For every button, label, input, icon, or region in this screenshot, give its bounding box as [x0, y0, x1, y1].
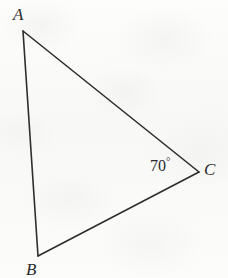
angle-label-c: 70° — [150, 156, 170, 174]
edge-AB — [23, 31, 38, 256]
edge-AC — [23, 31, 199, 172]
vertex-label-b: B — [26, 261, 36, 278]
vertex-label-c: C — [204, 161, 215, 178]
edge-BC — [38, 172, 199, 256]
degree-symbol-icon: ° — [166, 155, 170, 167]
angle-value-c: 70 — [150, 157, 166, 174]
triangle-drawing — [0, 0, 228, 278]
vertex-label-a: A — [13, 6, 23, 23]
geometry-figure: A B C 70° — [0, 0, 228, 278]
